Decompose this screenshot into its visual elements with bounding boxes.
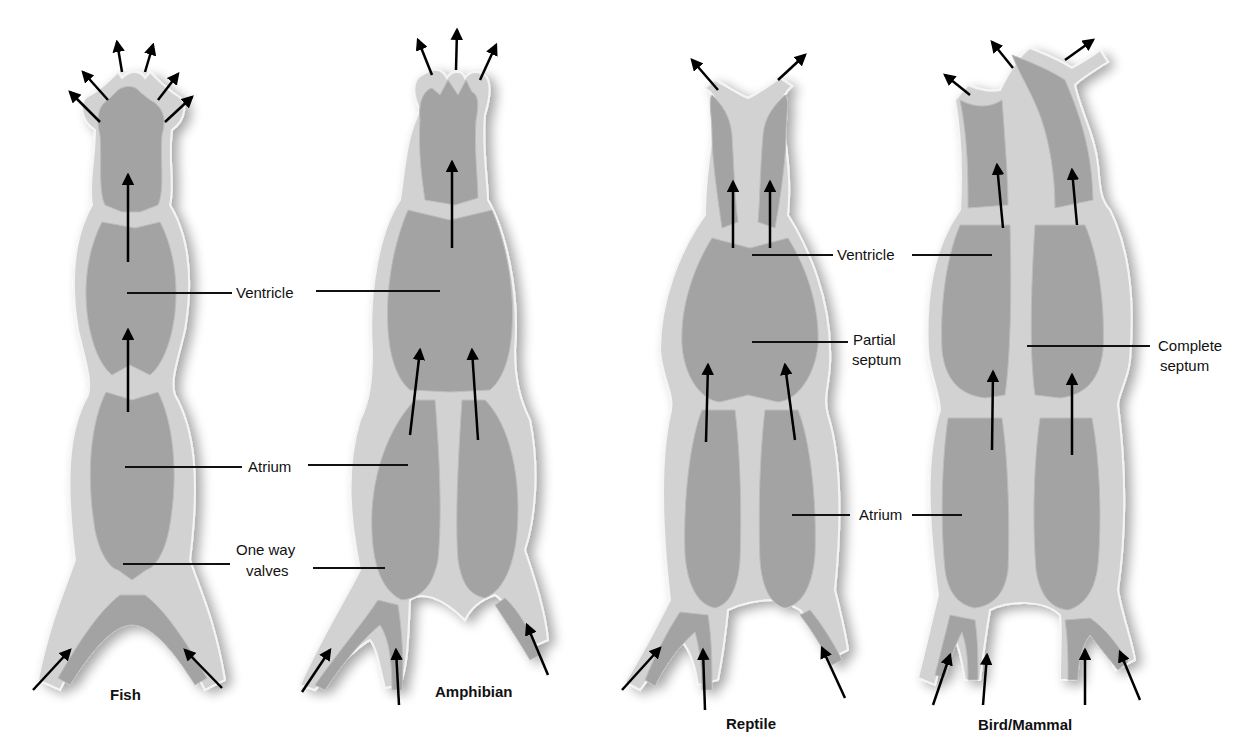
- flow-arrow: [418, 40, 432, 75]
- flow-arrow: [778, 55, 805, 80]
- flow-arrow: [992, 42, 1013, 68]
- label-reptile-atrium: Atrium: [859, 506, 902, 523]
- flow-arrow: [945, 75, 970, 95]
- label-reptile-ventricle: Ventricle: [837, 246, 895, 263]
- label-partial-2: septum: [852, 351, 901, 368]
- label-ventricle: Ventricle: [236, 284, 294, 301]
- flow-arrow: [692, 60, 718, 90]
- flow-arrow: [480, 45, 496, 80]
- label-valves-1: One way: [236, 541, 296, 558]
- bird-mammal-heart: [918, 48, 1135, 685]
- label-valves-2: valves: [246, 562, 289, 579]
- label-complete-2: septum: [1160, 357, 1209, 374]
- amphibian-heart: [300, 70, 548, 690]
- flow-arrow: [983, 655, 987, 705]
- label-partial-1: Partial: [853, 331, 896, 348]
- title-amphibian: Amphibian: [435, 683, 513, 700]
- fish-heart: [38, 72, 225, 690]
- heart-comparison-diagram: Ventricle Atrium One way valves Ventricl…: [0, 0, 1256, 755]
- label-complete-1: Complete: [1158, 337, 1222, 354]
- reptile-heart: [625, 78, 848, 690]
- label-atrium: Atrium: [248, 458, 291, 475]
- flow-arrow: [456, 30, 457, 70]
- title-fish: Fish: [110, 686, 141, 703]
- flow-arrow: [145, 45, 153, 72]
- flow-arrow: [117, 42, 122, 72]
- title-reptile: Reptile: [726, 715, 776, 732]
- title-bird-mammal: Bird/Mammal: [978, 716, 1072, 733]
- flow-arrow: [992, 372, 993, 450]
